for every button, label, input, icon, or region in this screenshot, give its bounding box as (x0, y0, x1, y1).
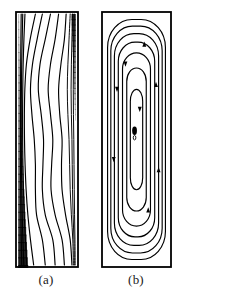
left-wall-boundary-layer (18, 136, 22, 145)
left-wall-boundary-layer (18, 75, 20, 84)
right-wall-boundary-layer (73, 56, 76, 62)
left-wall-boundary-layer (18, 265, 28, 268)
left-wall-boundary-layer (18, 250, 27, 259)
left-wall-boundary-layer (18, 14, 19, 23)
left-wall-boundary-layer (18, 242, 27, 251)
left-wall-boundary-layer (18, 181, 24, 190)
right-wall-boundary-layer (72, 14, 76, 20)
right-wall-boundary-layer (72, 30, 76, 36)
left-wall-boundary-layer (18, 159, 23, 168)
right-wall-boundary-layer (75, 99, 76, 105)
right-wall-boundary-layer (74, 77, 76, 83)
right-wall-boundary-layer (72, 40, 75, 46)
left-wall-boundary-layer (18, 44, 19, 53)
left-wall-boundary-layer (18, 219, 26, 228)
panel-a-isotherms (15, 11, 79, 268)
left-wall-boundary-layer (18, 235, 26, 244)
left-wall-boundary-layer (18, 37, 19, 46)
left-wall-boundary-layer (18, 151, 23, 160)
right-wall-boundary-layer (75, 109, 76, 115)
left-wall-boundary-layer (18, 29, 19, 38)
caption-panel-b: (b) (98, 272, 174, 288)
vortex-core-marker (132, 127, 137, 135)
left-wall-boundary-layer (18, 22, 19, 31)
left-wall-boundary-layer (18, 166, 23, 175)
left-wall-boundary-layer (18, 105, 21, 114)
left-wall-boundary-layer (18, 212, 25, 221)
right-wall-boundary-layer (74, 83, 76, 89)
left-wall-boundary-layer (18, 90, 20, 99)
left-wall-boundary-layer (18, 82, 20, 91)
left-wall-boundary-layer (18, 174, 23, 183)
right-wall-boundary-layer (72, 35, 76, 41)
right-wall-boundary-layer (75, 114, 76, 120)
left-wall-boundary-layer (18, 60, 20, 69)
left-wall-boundary-layer (18, 113, 21, 122)
right-wall-boundary-layer (74, 88, 76, 94)
left-wall-boundary-layer (18, 52, 19, 61)
left-wall-boundary-layer (18, 67, 20, 76)
left-wall-boundary-layer (18, 204, 25, 213)
right-wall-boundary-layer (72, 25, 76, 31)
left-wall-boundary-layer (18, 143, 22, 152)
right-wall-boundary-layer (72, 19, 76, 25)
caption-panel-a: (a) (10, 272, 82, 288)
right-wall-boundary-layer (73, 62, 76, 68)
figure-container: (a) (b) (0, 0, 225, 306)
right-wall-boundary-layer (73, 46, 76, 52)
left-wall-boundary-layer (18, 227, 26, 236)
right-wall-boundary-layer (73, 51, 76, 57)
left-wall-boundary-layer (18, 98, 21, 107)
left-wall-boundary-layer (18, 189, 24, 198)
left-wall-boundary-layer (18, 128, 22, 137)
panel-b-frame (102, 12, 171, 267)
right-wall-boundary-layer (73, 67, 75, 73)
panel-b-streamlines (101, 11, 172, 268)
panel-a-svg (15, 11, 79, 268)
panel-b-svg (101, 11, 172, 268)
left-wall-boundary-layer (18, 197, 24, 206)
left-wall-boundary-layer (18, 120, 21, 129)
right-wall-boundary-layer (75, 104, 76, 110)
left-wall-boundary-layer (18, 257, 28, 266)
right-wall-boundary-layer (74, 72, 76, 78)
right-wall-boundary-layer (74, 93, 75, 99)
